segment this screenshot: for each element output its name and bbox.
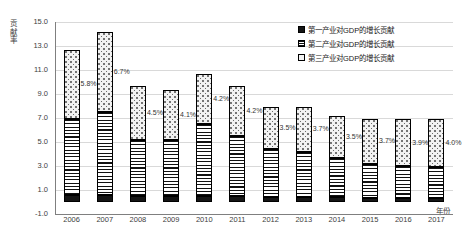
bar-segment-tertiary: [97, 32, 113, 112]
bar-segment-secondary: [196, 124, 212, 196]
y-tick-label: -1.0: [18, 210, 48, 218]
legend-item-tertiary: 第三产业对GDP的增长贡献: [298, 50, 394, 64]
gridline: [55, 94, 453, 95]
bar-segment-secondary: [130, 140, 146, 196]
bar-2015: [362, 119, 378, 202]
swatch-solid-black-icon: [298, 26, 305, 33]
bar-segment-primary: [296, 197, 312, 202]
y-axis-line: [55, 22, 56, 214]
bar-segment-primary: [329, 197, 345, 202]
bar-segment-secondary: [263, 149, 279, 197]
bar-segment-tertiary: [130, 86, 146, 140]
y-tick-label: 1.0: [18, 186, 48, 194]
y-tick-label: 13.0: [18, 42, 48, 50]
legend-item-secondary: 第二产业对GDP的增长贡献: [298, 36, 394, 50]
y-tick-label: 7.0: [18, 114, 48, 122]
bar-data-label: 3.5%: [280, 124, 296, 131]
x-axis-line: [55, 214, 453, 215]
bar-data-label: 3.7%: [313, 125, 329, 132]
bar-segment-secondary: [296, 152, 312, 198]
y-tick-label: 11.0: [18, 66, 48, 74]
bar-data-label: 5.8%: [81, 80, 97, 87]
bar-segment-tertiary: [395, 119, 411, 166]
legend-label-secondary: 第二产业对GDP的增长贡献: [308, 38, 394, 49]
swatch-horizontal-lines-icon: [298, 40, 305, 47]
legend: 第一产业对GDP的增长贡献 第二产业对GDP的增长贡献 第三产业对GDP的增长贡…: [298, 22, 394, 64]
bar-data-label: 4.1%: [180, 111, 196, 118]
bar-segment-tertiary: [163, 90, 179, 139]
y-tick-label: 9.0: [18, 90, 48, 98]
bar-segment-secondary: [362, 164, 378, 199]
y-tick-label: 15.0: [18, 18, 48, 26]
bar-2006: [64, 50, 80, 202]
bar-segment-secondary: [395, 166, 411, 198]
x-tick-label: 2017: [416, 216, 456, 224]
bar-segment-primary: [130, 196, 146, 202]
bar-2017: [428, 119, 444, 202]
bar-segment-primary: [229, 196, 245, 202]
bar-segment-tertiary: [196, 74, 212, 124]
bar-2011: [229, 86, 245, 202]
bar-segment-secondary: [428, 167, 444, 198]
bar-segment-secondary: [329, 158, 345, 198]
gridline: [55, 190, 453, 191]
bar-segment-primary: [64, 195, 80, 202]
bar-data-label: 4.2%: [213, 95, 229, 102]
bar-segment-primary: [362, 198, 378, 202]
bar-data-label: 3.5%: [346, 133, 362, 140]
y-tick-label: 3.0: [18, 162, 48, 170]
bar-2007: [97, 32, 113, 202]
bar-segment-primary: [428, 198, 444, 202]
bar-data-label: 4.2%: [246, 107, 262, 114]
swatch-dots-icon: [298, 54, 305, 61]
legend-label-primary: 第一产业对GDP的增长贡献: [308, 24, 394, 35]
bar-segment-secondary: [64, 119, 80, 195]
bar-segment-tertiary: [296, 107, 312, 151]
bar-2016: [395, 119, 411, 202]
bar-segment-tertiary: [362, 119, 378, 163]
bar-segment-secondary: [163, 140, 179, 196]
bar-2014: [329, 116, 345, 202]
legend-label-tertiary: 第三产业对GDP的增长贡献: [308, 52, 394, 63]
bar-segment-primary: [395, 198, 411, 202]
bar-segment-primary: [263, 197, 279, 202]
bar-data-label: 4.5%: [147, 109, 163, 116]
bar-segment-primary: [163, 196, 179, 202]
bar-segment-tertiary: [229, 86, 245, 136]
bar-segment-primary: [97, 195, 113, 202]
bar-2010: [196, 74, 212, 202]
y-tick-label: 5.0: [18, 138, 48, 146]
bar-2009: [163, 90, 179, 202]
bar-segment-tertiary: [64, 50, 80, 120]
bar-segment-primary: [196, 196, 212, 202]
bar-segment-secondary: [229, 136, 245, 196]
bar-segment-tertiary: [329, 116, 345, 158]
bar-segment-secondary: [97, 112, 113, 195]
bar-segment-tertiary: [263, 107, 279, 149]
bar-2012: [263, 107, 279, 202]
bar-2013: [296, 107, 312, 202]
gridline: [55, 166, 453, 167]
bar-2008: [130, 86, 146, 202]
legend-item-primary: 第一产业对GDP的增长贡献: [298, 22, 394, 36]
bar-data-label: 3.7%: [379, 137, 395, 144]
bar-segment-tertiary: [428, 119, 444, 167]
stacked-bar-chart: 贡献率 年份 15.013.011.09.07.05.03.01.0-1.0 2…: [0, 0, 469, 237]
bar-data-label: 3.9%: [412, 139, 428, 146]
bar-data-label: 4.0%: [445, 139, 461, 146]
gridline: [55, 118, 453, 119]
bar-data-label: 6.7%: [114, 68, 130, 75]
